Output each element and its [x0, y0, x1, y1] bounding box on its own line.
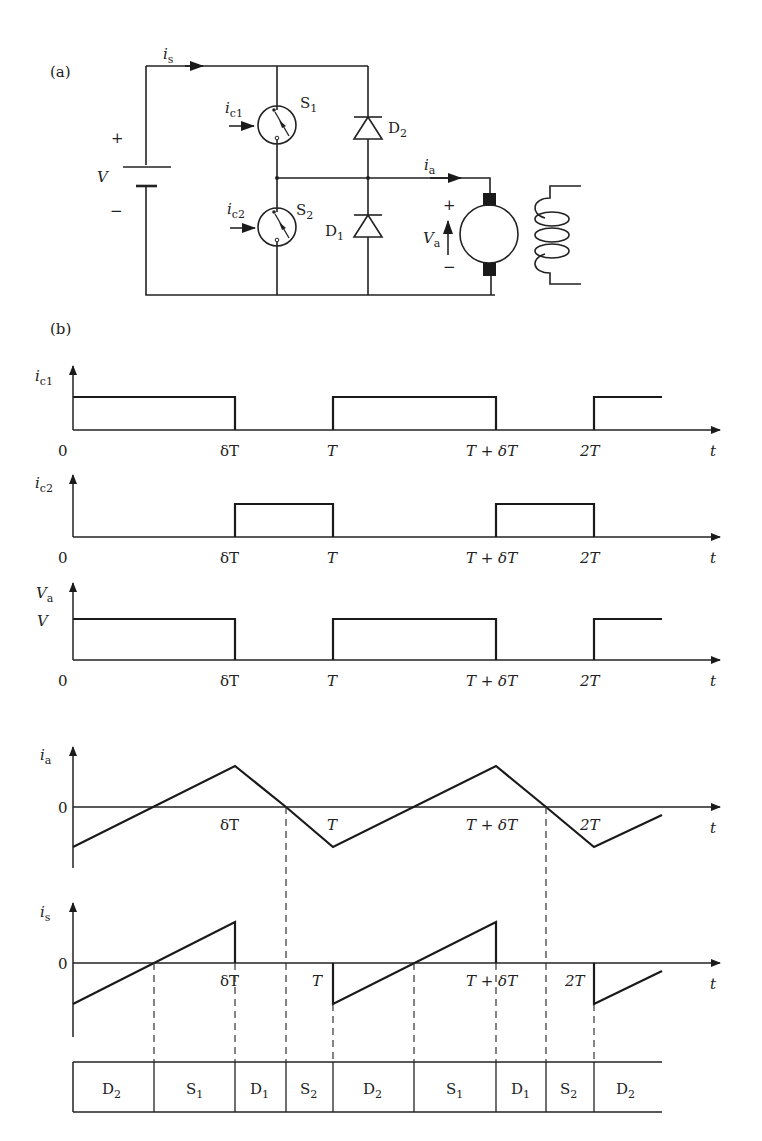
svg-text:T: T — [327, 672, 338, 690]
dc-motor-icon — [460, 193, 518, 295]
ic1-control-label: ic1 — [225, 99, 243, 120]
time-ticks: δT T T + δT 2T t — [220, 972, 717, 993]
source-voltage-label: V — [97, 168, 110, 186]
ic2-axis-label: ic2 — [35, 474, 53, 495]
armature-wire — [277, 178, 490, 193]
svg-text:T + δT: T + δT — [466, 442, 518, 460]
is-label: is — [163, 45, 174, 66]
svg-text:T + δT: T + δT — [466, 549, 518, 567]
diode-d2-icon — [354, 117, 382, 139]
part-b-label: (b) — [50, 320, 71, 338]
source-minus: − — [110, 202, 123, 220]
time-ticks: 0 δT T T + δT 2T t — [58, 442, 717, 460]
waveform-ic1: ic1 0 δT T T + δT 2T t — [35, 366, 720, 460]
svg-text:t: t — [710, 819, 717, 837]
table-cell: S1 — [186, 1080, 203, 1101]
part-a-label: (a) — [50, 63, 71, 81]
svg-text:t: t — [710, 442, 717, 460]
is-axis-label: is — [40, 903, 51, 924]
source-plus: + — [111, 129, 124, 147]
dashed-guides — [154, 807, 594, 1062]
va-minus: − — [443, 258, 456, 276]
s2-label: S2 — [296, 201, 313, 222]
svg-text:0: 0 — [58, 672, 68, 690]
ia-zero-label: 0 — [58, 799, 68, 817]
svg-text:2T: 2T — [579, 816, 601, 834]
svg-text:T: T — [327, 442, 338, 460]
ic2-control-label: ic2 — [227, 200, 245, 221]
svg-text:δT: δT — [220, 549, 239, 567]
chopper-figure: (a) is + V − ic1 S1 — [0, 0, 762, 1141]
table-cell: D1 — [250, 1080, 269, 1101]
svg-text:T: T — [327, 549, 338, 567]
va-axis-label: Va — [36, 584, 54, 605]
s1-label: S1 — [300, 94, 317, 115]
node-dot — [275, 176, 279, 180]
node-dot — [366, 176, 370, 180]
svg-text:T + δT: T + δT — [466, 672, 518, 690]
time-ticks: 0 δT T T + δT 2T t — [58, 672, 717, 690]
svg-text:δT: δT — [220, 972, 239, 990]
ic1-trace — [73, 397, 662, 430]
conduction-table: D2 S1 D1 S2 D2 S1 D1 S2 D2 — [73, 1062, 662, 1112]
svg-text:T + δT: T + δT — [466, 816, 518, 834]
waveform-ia: ia 0 δT T T + δT 2T t — [40, 746, 720, 868]
waveform-va: Va V 0 δT T T + δT 2T t — [36, 583, 720, 690]
svg-text:0: 0 — [58, 549, 68, 567]
table-cell: S1 — [446, 1080, 463, 1101]
diode-d1-icon — [354, 215, 382, 237]
va-label: Va — [423, 229, 441, 250]
waveform-is: is 0 δT T T + δT 2T t — [40, 903, 720, 1037]
field-winding-icon — [535, 186, 581, 284]
ic1-axis-label: ic1 — [35, 367, 53, 388]
va-plus: + — [443, 196, 456, 214]
svg-text:δT: δT — [220, 672, 239, 690]
circuit-diagram: (a) is + V − ic1 S1 — [50, 45, 581, 295]
svg-text:0: 0 — [58, 442, 68, 460]
svg-text:δT: δT — [220, 816, 239, 834]
svg-text:2T: 2T — [579, 549, 601, 567]
table-cell: D2 — [616, 1080, 635, 1101]
waveform-ic2: ic2 0 δT T T + δT 2T t — [35, 474, 720, 567]
is-zero-label: 0 — [58, 955, 68, 973]
svg-text:2T: 2T — [579, 672, 601, 690]
table-cell: D1 — [511, 1080, 530, 1101]
d1-label: D1 — [325, 222, 344, 243]
table-cell: D2 — [363, 1080, 382, 1101]
va-level-label: V — [37, 612, 50, 630]
table-cell: S2 — [300, 1080, 317, 1101]
switch-s1-icon — [258, 106, 296, 144]
svg-text:T: T — [327, 816, 338, 834]
svg-text:δT: δT — [220, 442, 239, 460]
time-ticks: 0 δT T T + δT 2T t — [58, 549, 717, 567]
d2-label: D2 — [388, 119, 407, 140]
svg-text:t: t — [710, 975, 717, 993]
svg-text:2T: 2T — [564, 972, 586, 990]
svg-text:T: T — [312, 972, 323, 990]
ia-axis-label: ia — [40, 746, 52, 767]
switch-s2-icon — [258, 208, 296, 246]
table-cell: S2 — [560, 1080, 577, 1101]
table-cell: D2 — [102, 1080, 121, 1101]
svg-text:2T: 2T — [579, 442, 601, 460]
ic2-trace — [235, 504, 594, 537]
svg-text:T + δT: T + δT — [466, 972, 518, 990]
time-ticks: δT T T + δT 2T t — [220, 816, 717, 837]
ia-label: ia — [424, 156, 436, 177]
va-trace — [73, 619, 662, 660]
svg-text:t: t — [710, 549, 717, 567]
svg-text:t: t — [710, 672, 717, 690]
